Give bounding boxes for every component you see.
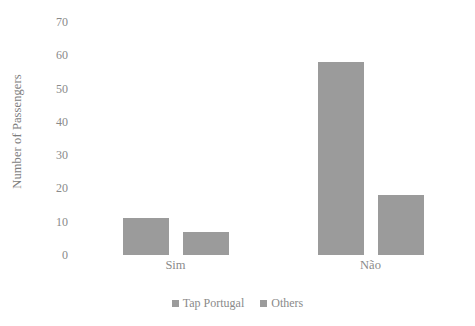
- y-axis-tick-label: 40: [56, 114, 68, 129]
- bar[interactable]: [378, 195, 424, 255]
- legend-item[interactable]: Tap Portugal: [172, 296, 244, 311]
- y-axis-tick-label: 30: [56, 148, 68, 163]
- bar-group-bars: [273, 22, 468, 255]
- y-axis-tick-label: 50: [56, 81, 68, 96]
- bar-group: [78, 22, 273, 255]
- y-axis-tick-label: 70: [56, 15, 68, 30]
- y-axis-tick-labels: 010203040506070: [34, 0, 74, 262]
- bar[interactable]: [123, 218, 169, 255]
- y-axis-title: Number of Passengers: [0, 0, 34, 262]
- y-axis-title-label: Number of Passengers: [10, 74, 25, 188]
- bar[interactable]: [183, 232, 229, 255]
- legend-label: Others: [271, 296, 303, 311]
- y-axis-tick-label: 10: [56, 214, 68, 229]
- bar-group: [273, 22, 468, 255]
- legend-swatch-icon: [260, 300, 267, 307]
- legend-item[interactable]: Others: [260, 296, 303, 311]
- chart-legend: Tap PortugalOthers: [0, 296, 475, 311]
- x-axis-category-labels: SimNão: [78, 258, 468, 280]
- bar-group-bars: [78, 22, 273, 255]
- legend-label: Tap Portugal: [183, 296, 244, 311]
- y-axis-tick-label: 0: [62, 248, 68, 263]
- x-axis-category-label: Sim: [165, 258, 185, 273]
- y-axis-tick-label: 60: [56, 48, 68, 63]
- x-axis-category-label: Não: [360, 258, 381, 273]
- bar-chart: Number of Passengers 010203040506070 Sim…: [0, 0, 475, 326]
- bar[interactable]: [318, 62, 364, 255]
- y-axis-tick-label: 20: [56, 181, 68, 196]
- legend-swatch-icon: [172, 300, 179, 307]
- plot-area: [78, 22, 468, 255]
